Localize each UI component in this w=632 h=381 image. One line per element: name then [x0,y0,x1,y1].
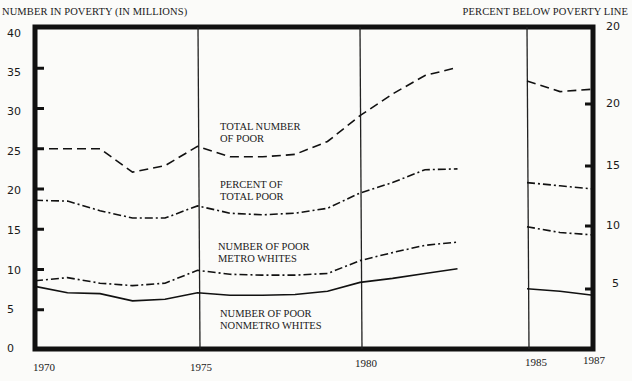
label-line: NUMBER OF POOR [218,241,310,253]
series-metro-whites-line [527,227,593,235]
label-percent-poor: PERCENT OF TOTAL POOR [220,179,284,203]
label-total-poor: TOTAL NUMBER OF POOR [220,121,301,145]
year-line-1980 [360,27,362,349]
label-line: METRO WHITES [218,253,310,265]
series-total-poor-line [527,81,593,92]
series-total-poor-line [35,67,458,172]
series-nonmetro-whites-line [35,269,458,301]
chart-frame [35,27,593,349]
label-line: NUMBER OF POOR [220,308,322,320]
series-percent-poor-line [527,183,593,189]
label-line: TOTAL NUMBER [220,121,301,133]
label-metro-whites: NUMBER OF POOR METRO WHITES [218,241,310,265]
year-line-1975 [198,27,200,349]
series-nonmetro-whites-line [527,289,593,296]
label-line: OF POOR [220,133,301,145]
label-line: PERCENT OF [220,179,284,191]
label-line: NONMETRO WHITES [220,320,322,332]
label-nonmetro-whites: NUMBER OF POOR NONMETRO WHITES [220,308,322,332]
label-line: TOTAL POOR [220,191,284,203]
year-line-1985 [527,27,529,349]
